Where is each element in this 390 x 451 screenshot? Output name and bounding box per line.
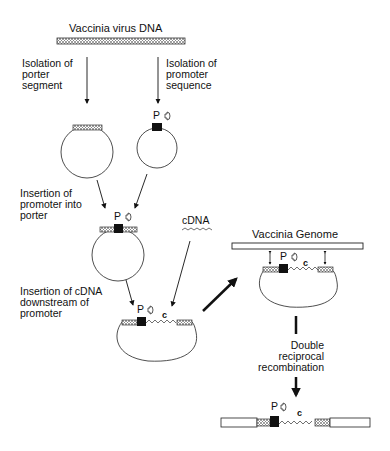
cdna-symbol: c <box>303 258 308 269</box>
step-promoter-label: Isolation of promoter sequence <box>166 58 217 91</box>
cdna-symbol: c <box>162 310 167 321</box>
aligned-plasmid <box>259 253 337 307</box>
vaccinia-genome-bar <box>232 243 363 249</box>
promoter-symbol: P <box>153 110 160 121</box>
homology-arrows <box>270 253 325 264</box>
recombinant-genome <box>221 403 370 427</box>
porter-plasmid <box>61 125 113 178</box>
arrow-cdna-to-construct <box>172 241 190 306</box>
cdna-squiggle <box>182 228 212 230</box>
cdna-construct-plasmid <box>117 306 197 361</box>
promoter-symbol: P <box>114 211 121 222</box>
arrow-to-genome <box>203 279 236 311</box>
arrow-to-cdna-construct <box>126 280 133 305</box>
vaccinia-dna-label: Vaccinia virus DNA <box>69 23 162 34</box>
arrow-promoter-to-recomb <box>135 174 147 208</box>
step-porter-label: Isolation of porter segment <box>22 58 73 91</box>
step-insert-promoter-label: Insertion of promoter into porter <box>20 188 82 221</box>
step-insert-cdna-label: Insertion of cDNA downstream of promoter <box>20 286 102 319</box>
promoter-symbol: P <box>280 251 287 262</box>
promoter-symbol: P <box>271 401 278 412</box>
arrow-porter-to-recomb <box>97 180 105 208</box>
cdna-label: cDNA <box>182 215 209 226</box>
vaccinia-dna-bar <box>57 38 185 44</box>
genome-label: Vaccinia Genome <box>252 229 338 240</box>
cdna-symbol: c <box>297 408 302 419</box>
porter-with-promoter <box>92 213 144 281</box>
step-recombination-label: Double reciprocal recombination <box>252 340 324 373</box>
promoter-symbol: P <box>137 304 144 315</box>
